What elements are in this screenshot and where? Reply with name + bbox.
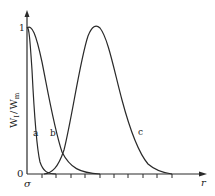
x-axis-arrow-icon (199, 172, 207, 177)
curve-b-label: b (50, 128, 56, 138)
y-tick-one: 1 (19, 23, 25, 33)
y-axis-arrow-icon (25, 10, 30, 17)
curve-c (44, 26, 172, 174)
y-axis-label: WI/Wm (8, 92, 21, 128)
y-tick-zero: 0 (17, 168, 23, 179)
curve-a-label: a (33, 128, 39, 138)
svg-text:WI/Wm: WI/Wm (8, 92, 21, 128)
curve-c-label: c (138, 127, 143, 137)
chart: 1 0 σ r WI/Wm a b c (0, 0, 215, 196)
x-origin-sigma: σ (24, 178, 32, 189)
curve-a (27, 28, 56, 174)
x-axis-label: r (201, 177, 207, 188)
x-ticks (42, 174, 172, 178)
